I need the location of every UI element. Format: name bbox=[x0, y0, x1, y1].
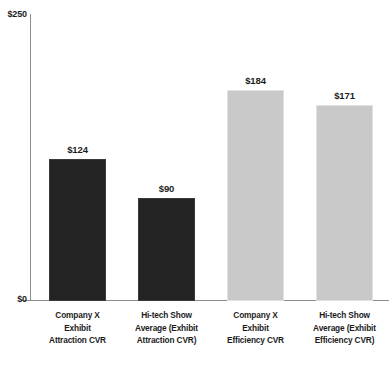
x-axis-label-1-line-2: Exhibit bbox=[33, 322, 122, 335]
x-axis-label-4-line-1: Hi-tech Show bbox=[300, 309, 389, 322]
bar-company-x-attraction-cvr[interactable] bbox=[49, 159, 106, 301]
bar-value-label-2: $90 bbox=[124, 183, 209, 194]
y-axis-tick-min: $0 bbox=[0, 294, 27, 304]
x-axis-label-4: Hi-tech Show Average (Exhibit Efficiency… bbox=[300, 309, 389, 347]
x-axis-label-2-line-2: Average (Exhibit bbox=[122, 322, 211, 335]
x-axis-label-4-line-3: Efficiency CVR) bbox=[300, 334, 389, 347]
bar-chart: $250 $0 $124 $90 $184 $171 Company X Exh… bbox=[0, 0, 391, 365]
y-axis-tick-max: $250 bbox=[0, 9, 27, 19]
x-axis-label-1-line-1: Company X bbox=[33, 309, 122, 322]
x-axis-label-1-line-3: Attraction CVR bbox=[33, 334, 122, 347]
bar-hitech-average-attraction-cvr[interactable] bbox=[138, 198, 195, 301]
x-axis-category-labels: Company X Exhibit Attraction CVR Hi-tech… bbox=[31, 305, 389, 363]
plot-area: $124 $90 $184 $171 bbox=[31, 14, 389, 301]
bar-value-label-3: $184 bbox=[213, 75, 298, 86]
bar-group-1: $124 bbox=[49, 14, 106, 301]
bar-value-label-4: $171 bbox=[302, 90, 387, 101]
x-axis-label-2-line-3: Attraction CVR) bbox=[122, 334, 211, 347]
x-axis-label-3-line-2: Exhibit bbox=[211, 322, 300, 335]
x-axis-label-3-line-3: Efficiency CVR bbox=[211, 334, 300, 347]
bar-company-x-efficiency-cvr[interactable] bbox=[227, 90, 284, 301]
bar-hitech-average-efficiency-cvr[interactable] bbox=[316, 105, 373, 301]
x-axis-label-3: Company X Exhibit Efficiency CVR bbox=[211, 309, 300, 347]
bar-group-2: $90 bbox=[138, 14, 195, 301]
x-axis-label-1: Company X Exhibit Attraction CVR bbox=[33, 309, 122, 347]
bar-group-4: $171 bbox=[316, 14, 373, 301]
x-axis-label-2: Hi-tech Show Average (Exhibit Attraction… bbox=[122, 309, 211, 347]
x-axis-label-2-line-1: Hi-tech Show bbox=[122, 309, 211, 322]
bar-group-3: $184 bbox=[227, 14, 284, 301]
x-axis-label-4-line-2: Average (Exhibit bbox=[300, 322, 389, 335]
bar-value-label-1: $124 bbox=[35, 144, 120, 155]
x-axis-label-3-line-1: Company X bbox=[211, 309, 300, 322]
